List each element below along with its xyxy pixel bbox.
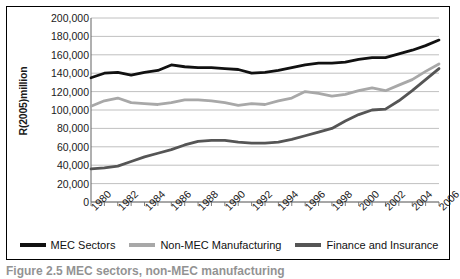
legend-swatch-finance-and-insurance bbox=[295, 243, 321, 246]
y-axis-tick-label: 80,000 bbox=[57, 123, 89, 134]
figure-root: R(2005)million 020,00040,00060,00080,000… bbox=[0, 0, 460, 279]
y-axis-tick-label: 0 bbox=[83, 197, 89, 208]
series-line-finance-and-insurance bbox=[91, 69, 439, 169]
legend-label-non-mec-manufacturing: Non-MEC Manufacturing bbox=[160, 239, 281, 251]
y-axis-tick-label: 140,000 bbox=[51, 68, 89, 79]
y-axis-tick-label: 120,000 bbox=[51, 86, 89, 97]
plot-area bbox=[91, 18, 439, 202]
series-line-non-mec-manufacturing bbox=[91, 64, 439, 106]
legend-swatch-mec-sectors bbox=[20, 243, 46, 246]
figure-caption: Figure 2.5 MEC sectors, non-MEC manufact… bbox=[6, 264, 446, 279]
chart-legend: MEC SectorsNon-MEC ManufacturingFinance … bbox=[7, 239, 451, 251]
line-chart-svg bbox=[91, 18, 439, 202]
chart-frame: R(2005)million 020,00040,00060,00080,000… bbox=[6, 6, 450, 260]
series-lines bbox=[91, 40, 439, 169]
y-axis-title: R(2005)million bbox=[17, 41, 29, 161]
y-axis-tick-label: 200,000 bbox=[51, 13, 89, 24]
y-axis-tick-label: 20,000 bbox=[57, 178, 89, 189]
legend-label-finance-and-insurance: Finance and Insurance bbox=[326, 239, 438, 251]
y-axis-tick-label: 60,000 bbox=[57, 142, 89, 153]
legend-item-finance-and-insurance[interactable]: Finance and Insurance bbox=[295, 239, 438, 251]
x-axis-tick-label: 2006 bbox=[437, 188, 460, 212]
gridlines bbox=[91, 18, 439, 202]
legend-swatch-non-mec-manufacturing bbox=[129, 243, 155, 246]
legend-item-mec-sectors[interactable]: MEC Sectors bbox=[20, 239, 116, 251]
series-line-mec-sectors bbox=[91, 40, 439, 78]
y-axis-tick-labels: 020,00040,00060,00080,000100,000120,0001… bbox=[33, 18, 89, 202]
y-axis-tick-label: 40,000 bbox=[57, 160, 89, 171]
y-axis-tick-label: 160,000 bbox=[51, 50, 89, 61]
y-axis-tick-label: 100,000 bbox=[51, 105, 89, 116]
legend-label-mec-sectors: MEC Sectors bbox=[51, 239, 116, 251]
y-axis-tick-label: 180,000 bbox=[51, 31, 89, 42]
legend-item-non-mec-manufacturing[interactable]: Non-MEC Manufacturing bbox=[129, 239, 281, 251]
